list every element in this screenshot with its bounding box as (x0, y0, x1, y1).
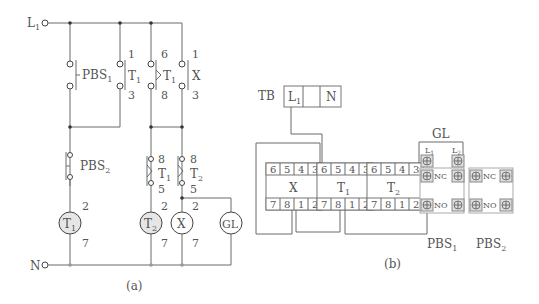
svg-text:1: 1 (349, 199, 355, 210)
svg-text:2: 2 (82, 200, 89, 213)
svg-text:8: 8 (161, 89, 168, 102)
relay-t2: 6543 T2 7812 (367, 163, 423, 210)
svg-text:3: 3 (192, 89, 199, 102)
n-terminal (42, 262, 48, 268)
t1-coil: T1 27 (59, 200, 89, 250)
svg-text:X: X (289, 181, 298, 195)
diagram-canvas: L1 PBS1 1 T1 3 6 T1 8 (0, 0, 539, 304)
svg-text:PBS2: PBS2 (476, 237, 506, 253)
svg-text:5: 5 (284, 164, 290, 175)
svg-text:GL: GL (432, 127, 450, 141)
svg-text:7: 7 (192, 237, 199, 250)
l1-terminal (42, 20, 48, 26)
pbs1-switch: NCNO PBS1 (420, 168, 464, 253)
svg-text:7: 7 (161, 237, 168, 250)
svg-text:5: 5 (190, 183, 197, 196)
pbs2-contact: PBS2 (66, 152, 110, 180)
svg-text:1: 1 (399, 199, 405, 210)
svg-text:1: 1 (128, 48, 135, 61)
svg-text:T1: T1 (163, 69, 176, 85)
svg-text:2: 2 (413, 199, 419, 210)
tb-label: TB (258, 89, 275, 103)
svg-text:2: 2 (161, 200, 168, 213)
svg-text:6: 6 (161, 48, 168, 61)
svg-text:8: 8 (385, 199, 391, 210)
svg-text:7: 7 (270, 199, 276, 210)
svg-text:6: 6 (321, 164, 327, 175)
svg-text:5: 5 (385, 164, 391, 175)
svg-text:PBS2: PBS2 (80, 159, 110, 175)
svg-text:NO: NO (434, 201, 448, 210)
l1-label: L1 (27, 16, 40, 32)
svg-text:6: 6 (371, 164, 377, 175)
svg-text:PBS1: PBS1 (427, 237, 457, 253)
svg-text:4: 4 (298, 164, 304, 175)
gl-lamp-base: GL L1 L2 (419, 127, 464, 167)
pbs2-switch: NCNO PBS2 (469, 168, 513, 253)
ladder-diagram: L1 PBS1 1 T1 3 6 T1 8 (27, 16, 242, 293)
svg-text:5: 5 (158, 183, 165, 196)
physical-wiring-diagram: TB L1 N 6543 X 7812 6543 T1 7812 (256, 86, 513, 271)
svg-text:3: 3 (413, 164, 419, 175)
svg-text:T1: T1 (158, 167, 171, 183)
svg-text:8: 8 (284, 199, 290, 210)
svg-text:T1: T1 (128, 69, 141, 85)
relay-x: 6543 X 7812 (266, 163, 322, 210)
n-label: N (30, 259, 41, 273)
svg-text:7: 7 (371, 199, 377, 210)
svg-text:T2: T2 (190, 167, 203, 183)
svg-text:4: 4 (349, 164, 355, 175)
svg-text:1: 1 (192, 48, 199, 61)
svg-text:2: 2 (192, 200, 199, 213)
svg-text:8: 8 (158, 153, 165, 166)
t1-no-contact: 1 T1 3 (117, 48, 141, 102)
svg-text:X: X (192, 69, 201, 83)
caption-a: (a) (126, 279, 143, 293)
svg-text:5: 5 (335, 164, 341, 175)
svg-text:NC: NC (483, 172, 496, 181)
svg-text:7: 7 (321, 199, 327, 210)
svg-text:1: 1 (298, 199, 304, 210)
svg-text:8: 8 (335, 199, 341, 210)
svg-text:X: X (177, 217, 186, 231)
svg-text:N: N (326, 90, 337, 104)
svg-text:7: 7 (82, 237, 89, 250)
svg-text:PBS1: PBS1 (82, 68, 112, 84)
svg-text:NO: NO (483, 201, 497, 210)
wiring-diagram: L1 PBS1 1 T1 3 6 T1 8 (0, 0, 539, 304)
svg-text:3: 3 (128, 89, 135, 102)
svg-text:8: 8 (190, 153, 197, 166)
svg-text:6: 6 (270, 164, 276, 175)
svg-text:GL: GL (222, 218, 239, 231)
gl-lamp: GL (220, 212, 242, 234)
caption-b: (b) (384, 257, 401, 271)
t1-timed-contact: 6 T1 8 (148, 48, 176, 102)
x-coil: X 27 (171, 200, 199, 250)
svg-text:NC: NC (434, 172, 447, 181)
pbs1-contact: PBS1 (67, 60, 112, 90)
relay-t1: 6543 T1 7812 (317, 163, 373, 210)
t2-coil: T2 27 (140, 200, 168, 250)
svg-text:4: 4 (399, 164, 405, 175)
